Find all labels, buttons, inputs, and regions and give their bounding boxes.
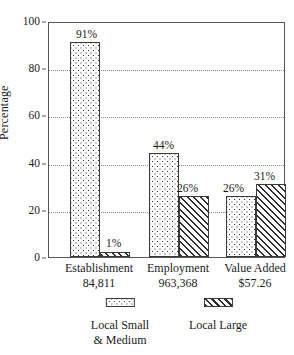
bar-establishment-local-small-medium[interactable] — [70, 42, 100, 257]
x-axis-label-value-added: Value Added $57.26 — [224, 261, 286, 290]
legend-label-local-small-medium-line2: & Medium — [91, 333, 149, 348]
bar-label-value-added-local-large: 31% — [254, 171, 275, 183]
legend-item-local-large[interactable]: Local Large — [189, 298, 247, 333]
legend: Local Small & Medium Local Large — [48, 298, 285, 355]
y-axis-tick-label-100: 100 — [23, 16, 40, 28]
y-axis-tick-label-20: 20 — [29, 205, 41, 217]
x-axis-label-employment: Employment 963,368 — [147, 261, 209, 290]
bar-chart-figure: Percentage 100 80 60 40 20 0 91% 1% 44% … — [0, 0, 294, 355]
y-axis-tick-mark-0 — [42, 258, 46, 259]
y-axis-tick-mark-80 — [42, 69, 46, 70]
bar-establishment-local-large[interactable] — [100, 252, 130, 257]
bar-label-employment-local-small-medium: 44% — [153, 140, 174, 152]
legend-label-local-small-medium-line1: Local Small — [91, 318, 149, 332]
bar-label-establishment-local-small-medium: 91% — [76, 29, 97, 41]
y-axis-tick-group: 100 80 60 40 20 0 — [0, 22, 46, 258]
x-axis-label-group: Establishment 84,811 Employment 963,368 … — [48, 261, 285, 293]
y-axis-tick-mark-100 — [42, 22, 46, 23]
x-axis-label-value-added-value: $57.26 — [224, 276, 286, 291]
y-axis-tick-label-0: 0 — [34, 252, 40, 264]
x-axis-label-establishment: Establishment 84,811 — [65, 261, 133, 290]
legend-item-local-small-medium[interactable]: Local Small & Medium — [91, 298, 149, 347]
bar-value-added-local-large[interactable] — [256, 184, 286, 257]
x-axis-label-employment-value: 963,368 — [147, 276, 209, 291]
bar-label-employment-local-large: 26% — [177, 183, 198, 195]
legend-label-local-small-medium: Local Small & Medium — [91, 318, 149, 347]
legend-swatch-hatch-icon — [203, 298, 232, 307]
y-axis-tick-label-40: 40 — [29, 158, 41, 170]
legend-label-local-large: Local Large — [189, 318, 247, 333]
bar-employment-local-large[interactable] — [179, 196, 209, 257]
x-axis-label-establishment-name: Establishment — [65, 261, 133, 275]
y-axis-tick-label-80: 80 — [29, 63, 41, 75]
bar-label-value-added-local-small-medium: 26% — [223, 183, 244, 195]
bar-label-establishment-local-large: 1% — [106, 238, 121, 250]
bar-employment-local-small-medium[interactable] — [149, 153, 179, 257]
x-axis-label-value-added-name: Value Added — [224, 261, 286, 275]
x-axis-label-establishment-value: 84,811 — [65, 276, 133, 291]
y-axis-tick-label-60: 60 — [29, 111, 41, 123]
y-axis-tick-mark-40 — [42, 163, 46, 164]
y-axis-tick-mark-60 — [42, 116, 46, 117]
bar-value-added-local-small-medium[interactable] — [226, 196, 256, 257]
y-axis-tick-mark-20 — [42, 210, 46, 211]
x-axis-label-employment-name: Employment — [147, 261, 209, 275]
legend-swatch-dots-icon — [105, 298, 134, 307]
legend-label-local-large-line1: Local Large — [189, 318, 247, 332]
plot-area: 91% 1% 44% 26% 26% 31% — [48, 22, 285, 258]
